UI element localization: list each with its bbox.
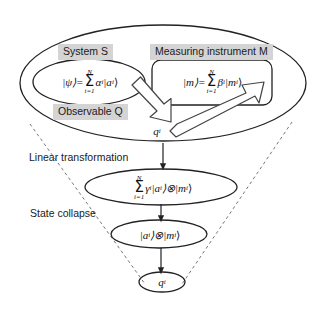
instrument-state-ket-close: ⟩ xyxy=(238,77,242,88)
final-eigenvalue-label: qi xyxy=(151,275,173,289)
cone-left-dashed-line xyxy=(30,124,145,284)
observable-label: Observable Q xyxy=(53,104,128,120)
system-label: System S xyxy=(58,44,113,60)
diagram-canvas: System S Measuring instrument M Observab… xyxy=(0,0,315,309)
instrument-state-formula: |m⟩= N Σ i=1 βi|mi⟩ xyxy=(165,72,260,92)
instrument-label-text: Measuring instrument M xyxy=(155,45,268,57)
instrument-label: Measuring instrument M xyxy=(150,44,273,60)
system-state-ket-close: ⟩ xyxy=(114,77,118,88)
system-state-ket: |a xyxy=(103,77,112,88)
collapsed-state-formula: |ai⟩⊗|mi⟩ xyxy=(122,227,198,243)
linear-transformation-label-text: Linear transformation xyxy=(29,151,128,163)
entangled-tensor-product: ⟩⊗|m xyxy=(162,183,186,194)
instrument-state-summation: N Σ i=1 xyxy=(206,69,216,95)
state-collapse-label-text: State collapse xyxy=(30,207,96,219)
linear-transformation-label: Linear transformation xyxy=(29,152,128,163)
observable-label-text: Observable Q xyxy=(58,105,123,117)
system-label-text: System S xyxy=(63,45,108,57)
system-state-summation: N Σ i=1 xyxy=(84,69,94,95)
collapsed-tensor-product: ⟩⊗|m xyxy=(150,230,174,241)
entangled-sum-lower-limit: i=1 xyxy=(134,194,144,201)
system-state-lhs: |ψ⟩= xyxy=(62,77,83,88)
collapsed-ket-a: |a xyxy=(140,230,149,241)
instrument-state-lhs: |m⟩= xyxy=(183,77,205,88)
state-collapse-label: State collapse xyxy=(30,208,96,219)
instrument-state-ket: |m xyxy=(225,77,236,88)
outcome-eigenvalue-label: qi xyxy=(146,124,168,138)
entangled-state-formula: N Σ i=1 γi|ai⟩⊗|mi⟩ xyxy=(110,178,215,198)
entangled-ket-a: |a xyxy=(152,183,161,194)
system-state-formula: |ψ⟩= N Σ i=1 αi|ai⟩ xyxy=(45,72,135,92)
system-state-sum-lower-limit: i=1 xyxy=(84,88,94,95)
entangled-ket-close: ⟩ xyxy=(188,183,192,194)
entangled-state-summation: N Σ i=1 xyxy=(134,175,144,201)
collapsed-ket-close: ⟩ xyxy=(176,230,180,241)
outcome-eigenvalue-subscript: i xyxy=(159,128,161,135)
instrument-state-sum-lower-limit: i=1 xyxy=(206,88,216,95)
final-eigenvalue-subscript: i xyxy=(164,279,166,286)
